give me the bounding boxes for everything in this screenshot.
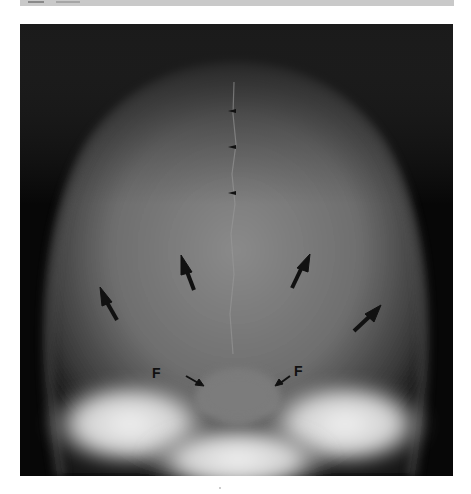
radiograph-graphic — [20, 24, 453, 476]
page-mark — [219, 487, 221, 489]
header-text-fragment — [28, 1, 44, 3]
foramen-label-right: F — [294, 364, 303, 378]
header-text-fragment — [56, 1, 80, 3]
foramen-label-left: F — [152, 366, 161, 380]
skull-radiograph: F F — [20, 24, 453, 476]
page-header-strip — [20, 0, 454, 6]
